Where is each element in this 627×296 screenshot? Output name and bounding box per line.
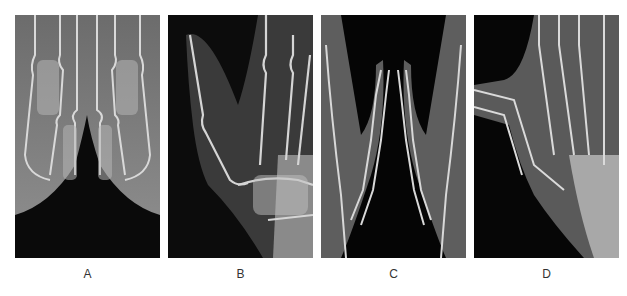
panel-label-b: B	[168, 267, 313, 281]
xray-image-d	[474, 15, 619, 258]
xray-image-a	[15, 15, 160, 258]
panel-label-c: C	[321, 267, 466, 281]
xray-panel-b	[168, 15, 313, 258]
xray-panel-a	[15, 15, 160, 258]
xray-image-b	[168, 15, 313, 258]
xray-image-c	[321, 15, 466, 258]
xray-panel-c	[321, 15, 466, 258]
panel-label-d: D	[474, 267, 619, 281]
xray-panel-d	[474, 15, 619, 258]
panel-label-a: A	[15, 267, 160, 281]
